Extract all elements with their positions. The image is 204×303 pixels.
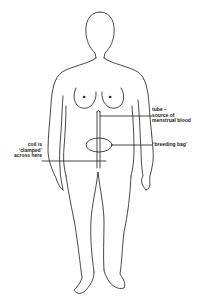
- tube-label: tube – source of menstrual blood: [152, 107, 191, 124]
- inner-legs: [91, 172, 104, 272]
- left-torso: [64, 106, 66, 176]
- breeding-bag-label-line-1: ‘breeding bag’: [153, 142, 187, 148]
- coil-label-line-3: across here: [6, 153, 42, 159]
- tube-label-line-3: menstrual blood: [152, 118, 191, 124]
- right-breast: [102, 88, 124, 108]
- tube: [97, 111, 100, 169]
- left-nipple: [83, 96, 85, 98]
- right-leg-outer: [104, 176, 131, 289]
- left-inner-arm: [60, 96, 63, 190]
- left-leg-outer: [66, 176, 94, 293]
- left-breast: [74, 88, 96, 108]
- head-outline: [86, 12, 114, 58]
- right-shoulder-arm: [104, 58, 153, 190]
- right-torso: [131, 106, 134, 176]
- coil-label: coil is ‘clamped’ across here: [6, 142, 42, 159]
- right-nipple: [109, 96, 111, 98]
- breeding-bag: [86, 138, 112, 152]
- breeding-bag-label: ‘breeding bag’: [153, 142, 187, 148]
- left-shoulder-arm: [48, 58, 96, 190]
